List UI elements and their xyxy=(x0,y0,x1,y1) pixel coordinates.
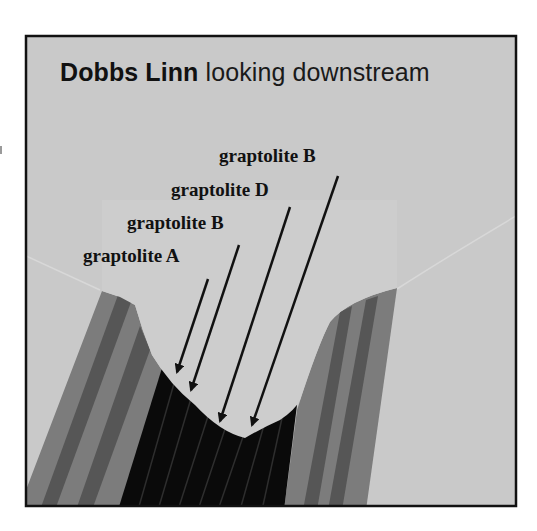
label-graptolite-b-upper: graptolite B xyxy=(219,145,316,167)
diagram-title: Dobbs Linn looking downstream xyxy=(60,58,430,87)
title-location: Dobbs Linn xyxy=(60,58,198,86)
label-graptolite-b-lower: graptolite B xyxy=(127,212,224,234)
dobbs-linn-diagram: Dobbs Linn looking downstream graptolite… xyxy=(0,0,537,531)
label-graptolite-d: graptolite D xyxy=(171,179,269,201)
title-description: looking downstream xyxy=(198,58,429,86)
label-graptolite-a: graptolite A xyxy=(83,245,180,267)
